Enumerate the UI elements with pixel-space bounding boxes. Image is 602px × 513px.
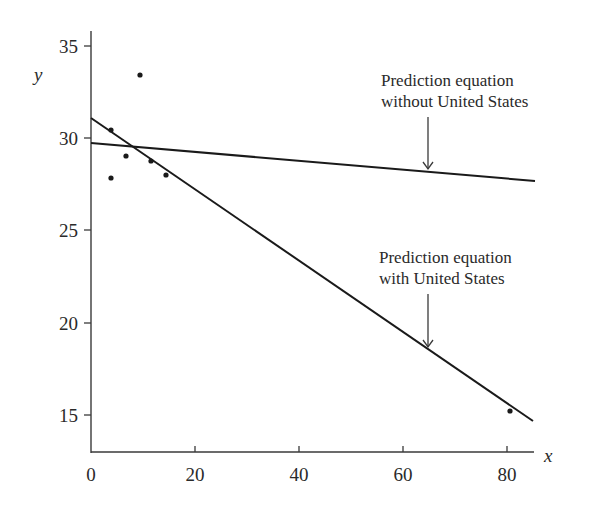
x-axis-label: x: [543, 445, 553, 466]
y-tick-label: 35: [59, 36, 78, 57]
y-tick-label: 20: [59, 313, 78, 334]
data-point: [123, 153, 128, 158]
y-tick-label: 15: [59, 405, 78, 426]
y-tick-label: 30: [59, 128, 78, 149]
scatter-chart: 35 30 25 20 15 0 20 40 60 80 y x Predict…: [0, 0, 602, 513]
y-axis-label: y: [32, 64, 43, 85]
data-point-outlier: [507, 408, 512, 413]
y-tick-label: 25: [59, 220, 78, 241]
y-ticks: 35 30 25 20 15: [59, 36, 91, 426]
data-point: [108, 175, 113, 180]
annotation-without-us: Prediction equation without United State…: [381, 71, 528, 169]
annotation-with-us: Prediction equation with United States: [379, 248, 512, 347]
annotation-text: Prediction equation: [381, 71, 514, 90]
data-point: [108, 127, 113, 132]
data-point: [148, 158, 153, 163]
data-points: [108, 72, 512, 413]
x-tick-label: 60: [394, 464, 413, 485]
x-tick-label: 0: [86, 464, 96, 485]
x-tick-label: 20: [186, 464, 205, 485]
annotation-text: with United States: [379, 269, 505, 288]
x-tick-label: 40: [290, 464, 309, 485]
data-point: [163, 172, 168, 177]
data-point: [137, 72, 142, 77]
annotation-text: Prediction equation: [379, 248, 512, 267]
regression-line-without-us: [91, 143, 535, 181]
annotation-text: without United States: [381, 92, 528, 111]
x-tick-label: 80: [498, 464, 517, 485]
